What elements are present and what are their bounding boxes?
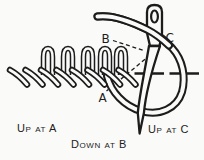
point-label-a: A	[99, 91, 108, 105]
caption-up-at-c: Up at C	[148, 124, 189, 135]
stitch-diagram-figure: A B C Up at A Down at B Up at C	[0, 0, 204, 160]
needle-eye	[151, 11, 158, 23]
stitch-diagram-canvas: A B C	[0, 0, 204, 160]
point-label-b: B	[102, 32, 110, 46]
caption-down-at-b: Down at B	[71, 139, 127, 150]
caption-up-at-a: Up at A	[17, 123, 57, 134]
point-label-c: C	[166, 31, 174, 45]
